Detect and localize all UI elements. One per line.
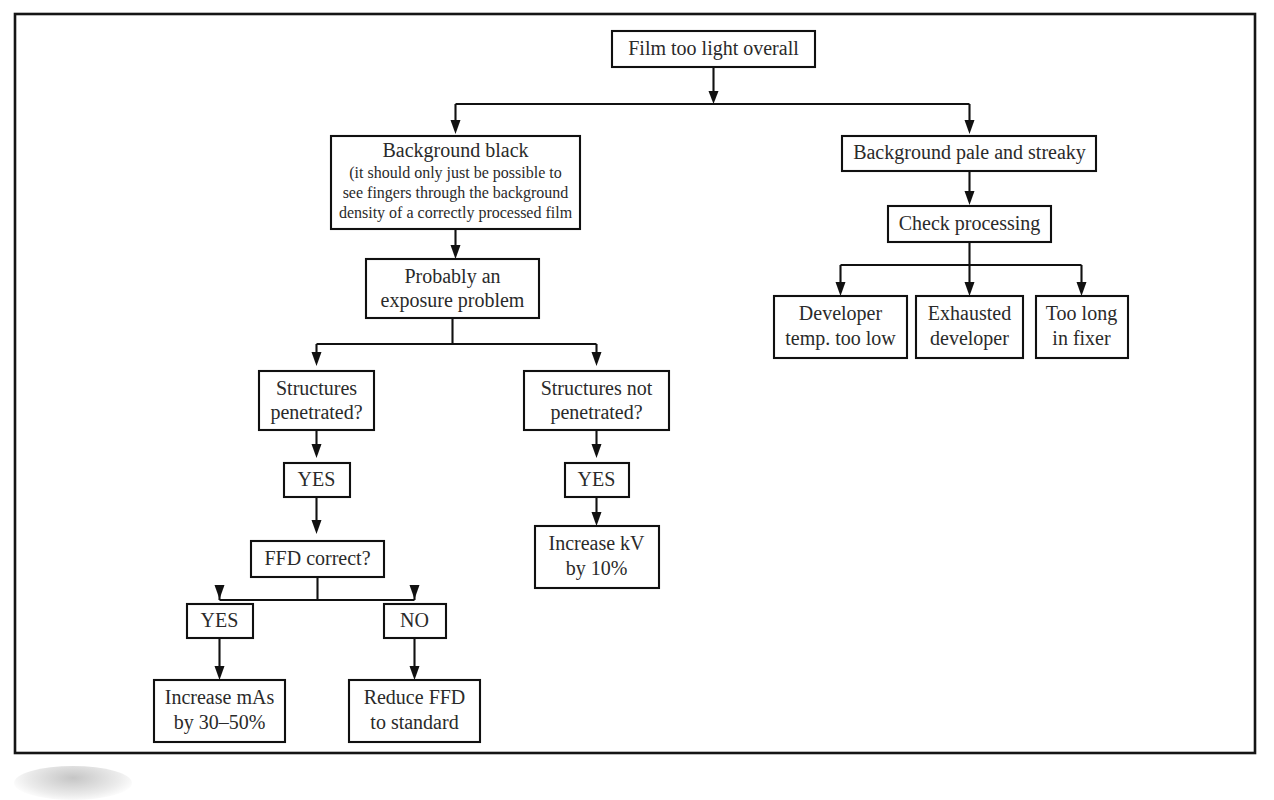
node-probably-an-exposure-problem[interactable]: Probably an exposure problem	[366, 259, 539, 318]
node-reduce-ffd-to-standard[interactable]: Reduce FFD to standard	[349, 680, 480, 742]
arrow-to-check-processing	[965, 191, 975, 205]
arrow-to-no-bottom	[410, 585, 420, 599]
node-structures-not-penetrated[interactable]: Structures not penetrated?	[524, 371, 669, 430]
arrow-to-background-black	[451, 120, 461, 134]
node-no-ffd-correct[interactable]: NO	[384, 604, 446, 638]
node-yes-structures-not-penetrated[interactable]: YES	[565, 463, 629, 497]
arrow-to-increase-kv	[592, 512, 602, 526]
arrow-to-structures-not-penetrated	[592, 352, 602, 366]
node-increase-mas[interactable]: Increase mAs by 30–50%	[154, 680, 285, 742]
node-label: Film too light overall	[628, 37, 799, 60]
node-label-line1: Structures	[276, 377, 357, 399]
node-label-line1: Too long	[1046, 302, 1117, 325]
node-label-line1: Increase mAs	[165, 686, 275, 708]
node-yes-structures-penetrated[interactable]: YES	[284, 463, 350, 497]
node-label-line1: Exhausted	[928, 302, 1011, 324]
arrow-to-exposure-problem	[451, 245, 461, 259]
page-corner-smudge	[14, 766, 132, 800]
node-label-line1: Developer	[799, 302, 883, 325]
node-ffd-correct[interactable]: FFD correct?	[251, 541, 384, 577]
node-label-line2: temp. too low	[785, 327, 896, 350]
node-label: Check processing	[899, 212, 1041, 235]
node-increase-kv-by-10-percent[interactable]: Increase kV by 10%	[535, 526, 659, 588]
arrow-to-structures-penetrated	[312, 352, 322, 366]
node-structures-penetrated[interactable]: Structures penetrated?	[259, 371, 374, 430]
node-label-line2: penetrated?	[550, 401, 642, 424]
node-label-line4: density of a correctly processed film	[339, 204, 573, 222]
arrow-to-background-pale	[965, 120, 975, 134]
node-film-too-light-overall[interactable]: Film too light overall	[612, 31, 815, 67]
node-developer-temp-too-low[interactable]: Developer temp. too low	[774, 296, 907, 358]
node-label-line2: penetrated?	[270, 401, 362, 424]
node-label: Background pale and streaky	[853, 141, 1086, 164]
node-label-line1: Probably an	[404, 265, 500, 288]
arrow-to-exhausted-developer	[965, 282, 975, 296]
arrow-to-too-long-fixer	[1077, 282, 1087, 296]
arrow-to-yes-left	[312, 444, 322, 458]
node-label-line2: (it should only just be possible to	[349, 164, 561, 182]
node-label-line1: Background black	[382, 139, 528, 162]
node-label: YES	[298, 468, 336, 490]
arrow-to-reduce-ffd	[410, 666, 420, 680]
node-label-line2: in fixer	[1052, 327, 1111, 349]
arrow-to-yes-right	[592, 444, 602, 458]
node-label-line3: see fingers through the background	[343, 184, 569, 202]
node-too-long-in-fixer[interactable]: Too long in fixer	[1036, 296, 1128, 358]
arrow-to-ffd-correct	[312, 520, 322, 534]
node-exhausted-developer[interactable]: Exhausted developer	[916, 296, 1023, 358]
node-check-processing[interactable]: Check processing	[888, 206, 1051, 242]
node-label-line1: Structures not	[541, 377, 653, 399]
node-background-black[interactable]: Background black (it should only just be…	[331, 136, 580, 229]
arrow-to-developer-temp	[836, 282, 846, 296]
node-label-line1: Reduce FFD	[364, 686, 466, 708]
node-background-pale-and-streaky[interactable]: Background pale and streaky	[842, 136, 1096, 171]
arrow-to-increase-mas	[215, 666, 225, 680]
node-label: YES	[578, 468, 616, 490]
node-label-line2: by 10%	[566, 557, 628, 580]
node-label: NO	[400, 609, 429, 631]
node-label-line2: by 30–50%	[174, 711, 266, 734]
node-label-line2: exposure problem	[381, 289, 525, 312]
node-label-line2: developer	[930, 327, 1009, 350]
node-label-line2: to standard	[370, 711, 458, 733]
node-label: YES	[201, 609, 239, 631]
node-yes-ffd-correct[interactable]: YES	[187, 604, 253, 638]
arrow-to-yes-bottom	[215, 585, 225, 599]
node-label: FFD correct?	[264, 547, 370, 569]
arrow-root-stem	[709, 91, 719, 104]
node-label-line1: Increase kV	[548, 532, 645, 554]
